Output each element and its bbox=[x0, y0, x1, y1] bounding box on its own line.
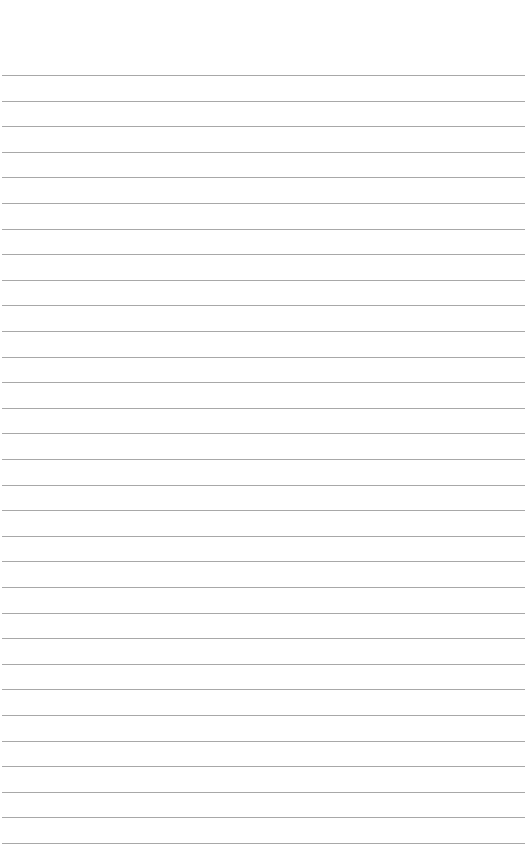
lined-paper-page bbox=[0, 0, 527, 864]
ruled-line bbox=[2, 459, 525, 460]
ruled-line bbox=[2, 75, 525, 76]
ruled-line bbox=[2, 254, 525, 255]
ruled-line bbox=[2, 126, 525, 127]
ruled-line bbox=[2, 664, 525, 665]
ruled-line bbox=[2, 689, 525, 690]
ruled-line bbox=[2, 741, 525, 742]
ruled-line bbox=[2, 408, 525, 409]
ruled-line bbox=[2, 613, 525, 614]
ruled-line bbox=[2, 817, 525, 818]
ruled-line bbox=[2, 715, 525, 716]
ruled-line bbox=[2, 331, 525, 332]
ruled-line bbox=[2, 305, 525, 306]
ruled-line bbox=[2, 561, 525, 562]
ruled-line bbox=[2, 792, 525, 793]
ruled-line bbox=[2, 587, 525, 588]
ruled-line bbox=[2, 101, 525, 102]
ruled-line bbox=[2, 280, 525, 281]
ruled-line bbox=[2, 357, 525, 358]
ruled-line bbox=[2, 485, 525, 486]
ruled-line bbox=[2, 382, 525, 383]
ruled-line bbox=[2, 203, 525, 204]
ruled-line bbox=[2, 433, 525, 434]
ruled-line bbox=[2, 177, 525, 178]
ruled-line bbox=[2, 536, 525, 537]
ruled-line bbox=[2, 510, 525, 511]
ruled-line bbox=[2, 152, 525, 153]
ruled-line bbox=[2, 843, 525, 844]
ruled-line bbox=[2, 766, 525, 767]
ruled-line bbox=[2, 638, 525, 639]
ruled-line bbox=[2, 229, 525, 230]
